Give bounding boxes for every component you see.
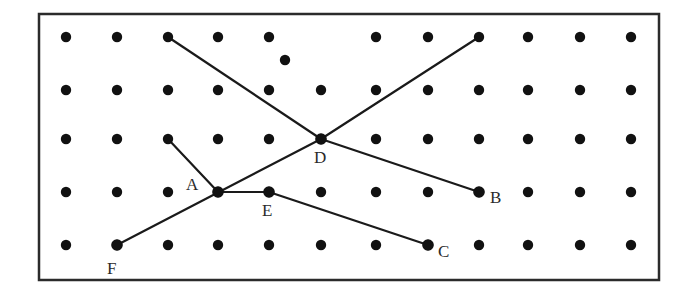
- grid-dot: [264, 240, 274, 250]
- grid-dot: [575, 187, 585, 197]
- grid-dot: [264, 134, 274, 144]
- grid-dot: [163, 85, 173, 95]
- grid-dot: [523, 32, 533, 42]
- line-segment: [269, 192, 428, 245]
- grid-dot: [112, 85, 122, 95]
- grid-dot: [213, 134, 223, 144]
- grid-dot: [213, 32, 223, 42]
- grid-dot: [163, 134, 173, 144]
- extra-dot: [280, 55, 290, 65]
- diagram-frame: [39, 14, 659, 280]
- grid-dot: [523, 187, 533, 197]
- grid-dot: [523, 240, 533, 250]
- point-b-dot: [473, 186, 485, 198]
- grid-dot: [264, 85, 274, 95]
- point-label-e: E: [262, 201, 272, 220]
- grid-dot: [371, 187, 381, 197]
- grid-dot: [163, 187, 173, 197]
- grid-dot: [423, 85, 433, 95]
- grid-dot: [61, 240, 71, 250]
- grid-dot: [371, 32, 381, 42]
- grid-dot: [626, 32, 636, 42]
- grid-dot: [264, 32, 274, 42]
- point-e-dot: [263, 186, 275, 198]
- point-label-f: F: [107, 259, 116, 278]
- point-f-dot: [111, 239, 123, 251]
- grid-dot: [575, 32, 585, 42]
- dot-grid-diagram: ABCDEF: [0, 0, 692, 297]
- grid-dot: [316, 240, 326, 250]
- grid-dot: [213, 85, 223, 95]
- grid-dot: [575, 134, 585, 144]
- grid-dot: [163, 32, 173, 42]
- point-label-d: D: [314, 148, 326, 167]
- grid-dot: [575, 85, 585, 95]
- point-a-dot: [212, 186, 224, 198]
- grid-dot: [626, 187, 636, 197]
- grid-dot: [626, 240, 636, 250]
- grid-dot: [112, 134, 122, 144]
- grid-dot: [474, 85, 484, 95]
- grid-dot: [523, 134, 533, 144]
- grid-dot: [61, 187, 71, 197]
- grid-dot: [316, 187, 326, 197]
- point-label-a: A: [186, 175, 199, 194]
- line-segment: [168, 37, 321, 139]
- grid-dot: [626, 134, 636, 144]
- grid-dot: [423, 187, 433, 197]
- line-segment: [321, 139, 479, 192]
- grid-dot: [575, 240, 585, 250]
- grid-dot: [423, 32, 433, 42]
- point-labels: ABCDEF: [107, 148, 501, 278]
- grid-dot: [163, 240, 173, 250]
- line-segment: [321, 37, 479, 139]
- grid-dot: [626, 85, 636, 95]
- grid-dot: [371, 85, 381, 95]
- point-label-b: B: [490, 188, 501, 207]
- grid-dot: [371, 240, 381, 250]
- grid-dot: [316, 85, 326, 95]
- point-c-dot: [422, 239, 434, 251]
- grid-dot: [474, 32, 484, 42]
- grid-dot: [213, 240, 223, 250]
- grid-dot: [474, 240, 484, 250]
- grid-dot: [61, 85, 71, 95]
- grid-dot: [61, 32, 71, 42]
- grid-dot: [423, 134, 433, 144]
- grid-dot: [474, 134, 484, 144]
- grid-dot: [371, 134, 381, 144]
- grid-dot: [61, 134, 71, 144]
- point-d-dot: [315, 133, 327, 145]
- grid-dot: [112, 187, 122, 197]
- grid-dot: [112, 32, 122, 42]
- point-label-c: C: [438, 242, 449, 261]
- grid-dot: [523, 85, 533, 95]
